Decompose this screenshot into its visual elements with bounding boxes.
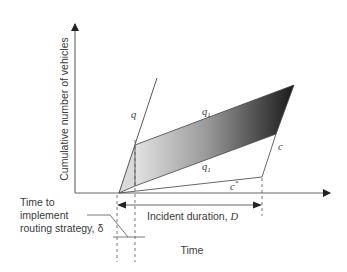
diagram-canvas: Cumulative number of vehicles Time q q1 … xyxy=(0,0,347,272)
diverted-vehicles-area xyxy=(135,85,294,186)
q1-upper-label: q1 xyxy=(202,106,211,119)
incident-duration-label: Incident duration, D xyxy=(147,210,238,222)
x-axis-label: Time xyxy=(181,244,204,256)
c-label: c xyxy=(278,141,283,152)
capacity-line xyxy=(262,134,276,177)
arrowhead-right-icon xyxy=(253,202,262,209)
arrowhead-left-icon xyxy=(117,202,126,209)
routing-delay-label-line3: routing strategy, δ xyxy=(20,222,103,234)
routing-delay-label-line1: Time to xyxy=(20,196,55,208)
y-axis-label: Cumulative number of vehicles xyxy=(58,37,70,181)
c-star-label: c* xyxy=(230,179,239,192)
q1-lower-label: q1 xyxy=(202,161,211,174)
routing-delay-label-line2: implement xyxy=(20,209,69,221)
q-label: q xyxy=(131,109,136,120)
queueing-diagram: Cumulative number of vehicles Time q q1 … xyxy=(0,0,347,272)
